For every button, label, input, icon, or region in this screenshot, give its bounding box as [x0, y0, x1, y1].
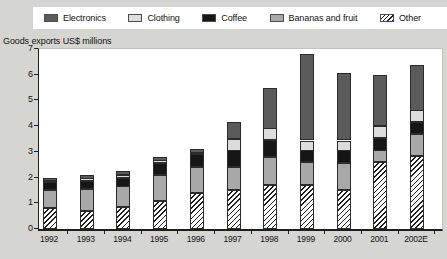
bar-segment-coffee	[153, 163, 167, 175]
bar-segment-coffee	[300, 150, 314, 162]
bar-segment-bananas-and-fruit	[116, 186, 130, 207]
bar-segment-clothing	[373, 126, 387, 138]
bar-segment-electronics	[80, 175, 94, 179]
bar-segment-electronics	[43, 178, 57, 181]
bar-segment-other	[337, 190, 351, 229]
x-axis-tick	[434, 230, 435, 234]
electronics-swatch-icon	[44, 14, 58, 22]
y-axis-tick-label: 2	[9, 172, 33, 182]
bar-segment-electronics	[227, 122, 241, 139]
bar-segment-electronics	[337, 73, 351, 140]
y-axis-tick	[34, 125, 38, 126]
legend-label: Electronics	[63, 13, 106, 23]
bar-segment-coffee	[80, 181, 94, 189]
y-axis-tick-label: 7	[9, 43, 33, 53]
legend-label: Bananas and fruit	[289, 13, 358, 23]
bar-segment-bananas-and-fruit	[190, 167, 204, 193]
x-axis-label-1998: 1998	[251, 234, 287, 244]
bar-segment-electronics	[300, 54, 314, 140]
bar-segment-other	[80, 211, 94, 229]
y-axis-tick	[34, 228, 38, 229]
bar-segment-clothing	[227, 139, 241, 151]
bar-segment-other	[43, 208, 57, 229]
bar-segment-bananas-and-fruit	[337, 163, 351, 190]
bar-segment-electronics	[153, 157, 167, 161]
x-axis-label-1992: 1992	[31, 234, 67, 244]
bar-group-1994	[116, 171, 130, 229]
bar-segment-clothing	[300, 141, 314, 151]
bar-segment-bananas-and-fruit	[227, 167, 241, 190]
legend: ElectronicsClothingCoffeeBananas and fru…	[33, 7, 447, 29]
bar-segment-bananas-and-fruit	[373, 150, 387, 162]
legend-item-bananas-and-fruit: Bananas and fruit	[270, 13, 358, 23]
bar-segment-clothing	[337, 141, 351, 151]
bar-segment-clothing	[43, 181, 57, 183]
bar-segment-electronics	[373, 75, 387, 126]
x-axis-label-1994: 1994	[104, 234, 140, 244]
bar-segment-coffee	[373, 138, 387, 151]
bar-segment-other	[410, 156, 424, 229]
bar-segment-bananas-and-fruit	[263, 157, 277, 185]
bar-segment-coffee	[337, 150, 351, 163]
x-axis-label-2000: 2000	[325, 234, 361, 244]
bar-segment-bananas-and-fruit	[43, 190, 57, 208]
x-axis-label-1996: 1996	[178, 234, 214, 244]
bar-segment-coffee	[227, 150, 241, 167]
legend-item-other: Other	[380, 13, 421, 23]
y-axis-tick-label: 3	[9, 146, 33, 156]
legend-item-clothing: Clothing	[128, 13, 179, 23]
bar-segment-other	[263, 185, 277, 229]
bar-segment-coffee	[263, 140, 277, 157]
bar-group-1995	[153, 157, 167, 229]
clothing-swatch-icon	[128, 14, 142, 22]
x-axis-label-1999: 1999	[288, 234, 324, 244]
bar-segment-other	[116, 207, 130, 229]
y-axis-tick-label: 1	[9, 197, 33, 207]
bar-segment-clothing	[263, 128, 277, 140]
legend-label: Coffee	[221, 13, 247, 23]
bar-segment-other	[227, 190, 241, 229]
y-axis-tick	[34, 48, 38, 49]
bar-group-1997	[227, 122, 241, 229]
y-axis-tick	[34, 151, 38, 152]
x-axis-label-1995: 1995	[141, 234, 177, 244]
bar-segment-bananas-and-fruit	[410, 134, 424, 156]
legend-item-electronics: Electronics	[44, 13, 106, 23]
x-axis-label-1993: 1993	[68, 234, 104, 244]
y-axis-tick	[34, 74, 38, 75]
bar-segment-other	[153, 201, 167, 229]
y-axis-tick-label: 4	[9, 120, 33, 130]
bar-group-1999	[300, 54, 314, 229]
bar-group-1992	[43, 179, 57, 229]
bar-segment-electronics	[263, 88, 277, 129]
bar-segment-coffee	[116, 178, 130, 187]
bar-segment-bananas-and-fruit	[153, 175, 167, 201]
bar-segment-electronics	[410, 65, 424, 111]
bar-segment-other	[190, 193, 204, 229]
coffee-swatch-icon	[202, 14, 216, 22]
bar-segment-other	[300, 185, 314, 229]
bar-group-2002e	[410, 64, 424, 229]
y-axis-tick-label: 5	[9, 94, 33, 104]
bar-segment-bananas-and-fruit	[300, 162, 314, 185]
x-axis-label-2002e: 2002E	[398, 234, 434, 244]
bar-group-2001	[373, 75, 387, 229]
bar-group-1996	[190, 149, 204, 229]
bar-segment-coffee	[190, 154, 204, 167]
bar-segment-coffee	[410, 122, 424, 134]
x-axis-label-2001: 2001	[361, 234, 397, 244]
bar-segment-bananas-and-fruit	[80, 189, 94, 211]
bar-segment-clothing	[116, 175, 130, 178]
y-axis-tick	[34, 202, 38, 203]
bar-segment-clothing	[410, 110, 424, 122]
other-swatch-icon	[380, 14, 394, 22]
y-axis-tick-label: 0	[9, 223, 33, 233]
y-axis-tick-label: 6	[9, 69, 33, 79]
x-axis-label-1997: 1997	[215, 234, 251, 244]
plot-area	[38, 48, 443, 231]
bar-segment-electronics	[190, 149, 204, 153]
bananas-and-fruit-swatch-icon	[270, 14, 284, 22]
y-axis-tick	[34, 99, 38, 100]
y-axis-tick	[34, 177, 38, 178]
bar-group-2000	[337, 73, 351, 229]
